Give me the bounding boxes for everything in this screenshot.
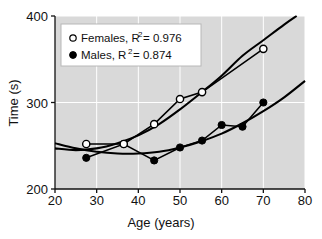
y-axis-title: Time (s) <box>6 79 21 126</box>
data-point-males <box>218 121 225 128</box>
data-point-females <box>176 95 183 102</box>
x-tick-label: 70 <box>256 193 270 208</box>
data-point-males <box>83 154 90 161</box>
legend-label-females: Females, R <box>81 32 140 44</box>
x-tick-label: 80 <box>298 193 312 208</box>
y-tick-labels: 200300400 <box>26 9 48 197</box>
legend-label-males: Males, R <box>81 49 126 61</box>
data-point-females <box>151 121 158 128</box>
y-tick-label: 200 <box>26 182 48 197</box>
x-tick-label: 60 <box>214 193 228 208</box>
legend-value-males: = 0.874 <box>133 49 172 61</box>
legend-marker-females-open-circle-icon <box>70 35 76 41</box>
x-tick-label: 30 <box>89 193 103 208</box>
data-point-females <box>198 89 205 96</box>
data-point-females <box>260 45 267 52</box>
y-tick-label: 400 <box>26 9 48 24</box>
x-tick-label: 20 <box>48 193 62 208</box>
data-point-males <box>260 99 267 106</box>
chart-figure: 20304050607080 200300400 Age (years) Tim… <box>0 0 322 239</box>
data-point-females <box>83 140 90 147</box>
x-tick-labels: 20304050607080 <box>48 193 312 208</box>
x-tick-label: 50 <box>173 193 187 208</box>
chart-legend: Females, R 2 = 0.976 Males, R 2 = 0.874 <box>61 24 201 66</box>
data-point-males <box>176 144 183 151</box>
data-point-males <box>151 157 158 164</box>
x-axis-title: Age (years) <box>127 215 194 230</box>
legend-marker-males-filled-circle-icon <box>70 52 77 59</box>
y-tick-label: 300 <box>26 96 48 111</box>
data-point-males <box>198 137 205 144</box>
data-point-males <box>239 123 246 130</box>
x-tick-label: 40 <box>131 193 145 208</box>
data-point-females <box>120 140 127 147</box>
chart-canvas: 20304050607080 200300400 Age (years) Tim… <box>0 0 322 239</box>
legend-value-females: = 0.976 <box>143 32 182 44</box>
